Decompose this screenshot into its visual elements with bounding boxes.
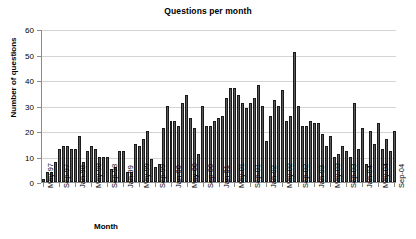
bar [377,123,380,182]
y-tick-label-40: 40 [25,77,34,86]
x-tick [234,183,235,187]
x-tick-label: Sep-03 [349,164,358,188]
bar-series [42,30,396,182]
x-tick-label: Jan-00 [174,165,183,188]
bar [154,167,157,182]
bar [281,90,284,182]
bar [90,146,93,182]
bar [217,118,220,182]
bar [393,131,396,182]
x-tick-label: Jan-04 [365,165,374,188]
bar [345,151,348,182]
x-tick-label: May-02 [285,163,294,188]
y-tick-40 [37,81,41,82]
y-tick-30 [37,107,41,108]
x-tick [346,183,347,187]
bar [233,88,236,182]
y-tick-60 [37,30,41,31]
bar [58,149,61,182]
y-tick-label-60: 60 [25,26,34,35]
x-tick-label: May-04 [381,163,390,188]
y-tick-10 [37,158,41,159]
x-tick-label: Sep-98 [110,164,119,188]
bar [138,146,141,182]
x-tick [75,183,76,187]
bar [361,128,364,182]
y-tick-50 [37,56,41,57]
x-tick [282,183,283,187]
x-tick-label: Sep-99 [158,164,167,188]
x-tick-label: May-98 [94,163,103,188]
x-tick-label: May-99 [142,163,151,188]
x-tick [330,183,331,187]
x-tick [362,183,363,187]
x-tick-label: Sep-97 [62,164,71,188]
x-tick-label: Jan-03 [317,165,326,188]
bar [42,179,45,182]
y-tick-label-20: 20 [25,128,34,137]
x-axis-tick-labels: May-97Sep-97Jan-98May-98Sep-98Jan-99May-… [41,188,396,222]
x-tick [107,183,108,187]
plot-area [41,30,396,183]
bar [329,136,332,182]
x-tick [91,183,92,187]
x-tick [187,183,188,187]
x-tick-label: May-01 [237,163,246,188]
bar [170,121,173,182]
y-tick-label-50: 50 [25,51,34,60]
x-tick-label: May-97 [46,163,55,188]
x-tick-label: Sep-04 [397,164,406,188]
x-tick-label: Jan-02 [269,165,278,188]
bar [122,151,125,182]
x-axis-label: Month [41,222,171,231]
x-tick [43,183,44,187]
x-tick-label: Sep-00 [206,164,215,188]
x-tick-label: May-03 [333,163,342,188]
x-tick-label: Sep-01 [253,164,262,188]
x-tick [155,183,156,187]
x-tick [59,183,60,187]
x-tick [298,183,299,187]
x-tick [314,183,315,187]
x-tick [203,183,204,187]
bar [201,106,204,183]
bar-chart: Questions per month Number of questions … [0,0,416,239]
x-tick [171,183,172,187]
bar [313,123,316,182]
chart-title: Questions per month [0,6,416,16]
bar [74,149,77,182]
bar [185,95,188,182]
x-tick-label: Jan-99 [126,165,135,188]
y-tick-20 [37,132,41,133]
x-tick [250,183,251,187]
bar [249,103,252,182]
y-tick-label-30: 30 [25,102,34,111]
x-tick [378,183,379,187]
y-tick-label-10: 10 [25,153,34,162]
y-tick-label-0: 0 [30,179,34,188]
bar [265,141,268,182]
bar [106,157,109,183]
x-tick-label: Jan-98 [78,165,87,188]
bar [297,106,300,183]
x-tick-label: Jan-01 [222,165,231,188]
x-tick [139,183,140,187]
x-tick [394,183,395,187]
x-tick [123,183,124,187]
x-tick-label: May-00 [190,163,199,188]
x-tick-label: Sep-02 [301,164,310,188]
y-axis-label: Number of questions [9,18,18,138]
x-tick [266,183,267,187]
x-tick [219,183,220,187]
